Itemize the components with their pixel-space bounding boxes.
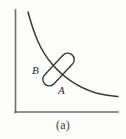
indifference-curve bbox=[28, 12, 118, 97]
axes-group bbox=[15, 10, 118, 113]
label-point-a: A bbox=[57, 84, 65, 96]
curve-group bbox=[28, 12, 118, 97]
figure-panel: B A (a) bbox=[0, 0, 126, 139]
figure-caption: (a) bbox=[0, 118, 126, 133]
label-point-b: B bbox=[32, 64, 39, 76]
